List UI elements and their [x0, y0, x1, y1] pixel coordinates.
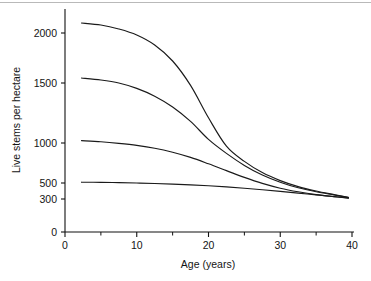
chart-figure: 0300500100015002000010203040 Age (years)… — [0, 0, 371, 281]
y-tick-label: 0 — [51, 226, 57, 238]
curve-initial-density-2100 — [82, 23, 349, 197]
tick-marks — [61, 33, 352, 237]
top-rule-divider — [0, 2, 371, 3]
y-axis-title: Live stems per hectare — [10, 67, 22, 173]
y-tick-label: 2000 — [34, 27, 58, 39]
x-tick-label: 0 — [62, 239, 68, 251]
y-tick-label: 500 — [39, 177, 57, 189]
curve-initial-density-1550 — [82, 78, 349, 198]
x-axis-title: Age (years) — [181, 258, 235, 270]
line-chart: 0300500100015002000010203040 Age (years)… — [0, 0, 371, 281]
data-curves — [82, 23, 349, 198]
y-tick-label: 1000 — [34, 137, 58, 149]
x-tick-label: 10 — [131, 239, 143, 251]
tick-labels: 0300500100015002000010203040 — [34, 27, 358, 251]
y-tick-label: 300 — [39, 193, 57, 205]
x-tick-label: 20 — [203, 239, 215, 251]
x-tick-label: 30 — [274, 239, 286, 251]
y-tick-label: 1500 — [34, 77, 58, 89]
x-tick-label: 40 — [346, 239, 358, 251]
